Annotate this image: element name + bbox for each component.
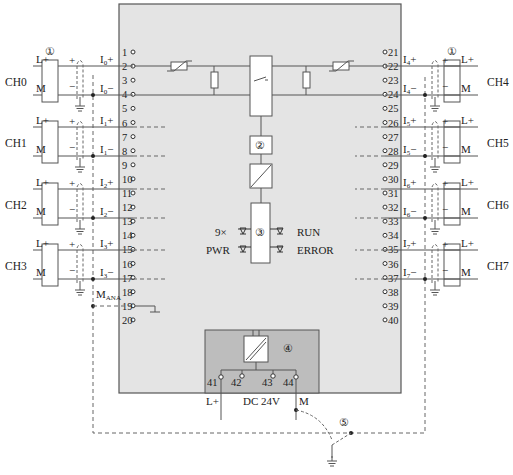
channel-name-ch4: CH4	[487, 76, 509, 88]
svg-text:−: −	[442, 264, 448, 276]
mana-label: MANA	[96, 288, 121, 302]
svg-text:−: −	[442, 141, 448, 153]
svg-text:L+: L+	[36, 176, 49, 188]
terminal-30	[383, 177, 387, 181]
svg-text:+: +	[442, 238, 448, 250]
svg-text:I5+: I5+	[403, 114, 416, 128]
power-supply-block: 41 42 43 44 ④ L+ DC 24V M	[205, 330, 319, 420]
pin-label-32: 32	[388, 202, 399, 213]
pin-label-5: 5	[122, 103, 127, 114]
channel-name-ch1: CH1	[5, 137, 27, 149]
terminal-35	[383, 247, 387, 251]
svg-text:−: −	[442, 203, 448, 215]
pin-label-30: 30	[388, 174, 399, 185]
svg-text:M: M	[36, 266, 46, 278]
svg-text:−: −	[69, 80, 75, 92]
terminal-3	[131, 78, 135, 82]
terminal-38	[383, 290, 387, 294]
led-error-label: ERROR	[297, 244, 334, 256]
terminal-4	[131, 92, 135, 96]
pin-label-39: 39	[388, 301, 399, 312]
pin-41: 41	[207, 377, 218, 388]
svg-text:−: −	[69, 264, 75, 276]
led-run-label: RUN	[297, 226, 320, 238]
callout-5: ⑤	[339, 416, 349, 428]
svg-text:I7+: I7+	[403, 237, 416, 251]
terminal-40	[383, 318, 387, 322]
terminal-21	[383, 50, 387, 54]
svg-text:I3−: I3−	[100, 266, 113, 280]
svg-text:I3+: I3+	[100, 237, 113, 251]
terminal-29	[383, 163, 387, 167]
channel-name-ch0: CH0	[5, 76, 27, 88]
terminal-5	[131, 106, 135, 110]
terminal-34	[383, 233, 387, 237]
channel-name-ch2: CH2	[5, 199, 27, 211]
pin-label-7: 7	[122, 132, 127, 143]
svg-text:M: M	[36, 143, 46, 155]
pin-43: 43	[262, 377, 273, 388]
pin-label-12: 12	[122, 202, 133, 213]
pin-label-36: 36	[388, 259, 399, 270]
terminal-33	[383, 219, 387, 223]
led-pwr-label: PWR	[206, 244, 231, 256]
svg-text:I0+: I0+	[100, 53, 113, 67]
terminal-23	[383, 78, 387, 82]
pin-label-3: 3	[122, 75, 127, 86]
pin-label-9: 9	[122, 160, 127, 171]
terminal-36	[383, 262, 387, 266]
svg-text:I4+: I4+	[403, 53, 416, 67]
svg-text:M: M	[36, 205, 46, 217]
svg-text:M: M	[461, 205, 471, 217]
svg-text:L+: L+	[461, 237, 474, 249]
pin-label-37: 37	[388, 273, 399, 284]
svg-text:I1+: I1+	[100, 114, 113, 128]
terminal-28	[383, 149, 387, 153]
pin-label-18: 18	[122, 287, 133, 298]
pin-label-20: 20	[122, 315, 133, 326]
svg-text:I4−: I4−	[403, 82, 416, 96]
pin-label-31: 31	[388, 188, 399, 199]
supply-lplus-label: L+	[206, 395, 219, 407]
channel-name-ch5: CH5	[487, 137, 509, 149]
pin-label-14: 14	[122, 230, 133, 241]
svg-text:+: +	[69, 54, 75, 66]
terminal-8	[131, 149, 135, 153]
svg-text:+: +	[69, 238, 75, 250]
pin-label-23: 23	[388, 75, 399, 86]
supply-voltage-label: DC 24V	[243, 395, 280, 407]
terminal-24	[383, 92, 387, 96]
channel-ch0: L+M+−CH0I0+I0−①	[5, 45, 133, 111]
pin-42: 42	[231, 377, 242, 388]
channel-ch4: L+M+−CH4I4+I4−①	[385, 45, 509, 111]
pin-44: 44	[283, 377, 294, 388]
terminal-9	[131, 163, 135, 167]
svg-text:L+: L+	[36, 237, 49, 249]
svg-text:I5−: I5−	[403, 143, 416, 157]
svg-text:M: M	[461, 143, 471, 155]
ground-connection-5: ⑤	[294, 408, 353, 466]
pin-label-27: 27	[388, 132, 399, 143]
terminal-31	[383, 191, 387, 195]
svg-text:I6−: I6−	[403, 205, 416, 219]
pin-label-22: 22	[388, 61, 399, 72]
channel-name-ch6: CH6	[487, 199, 509, 211]
led-9x-label: 9×	[215, 226, 227, 238]
svg-text:−: −	[69, 141, 75, 153]
svg-text:L+: L+	[461, 176, 474, 188]
pin-label-8: 8	[122, 146, 127, 157]
callout-2: ②	[255, 139, 265, 151]
svg-text:I7−: I7−	[403, 266, 416, 280]
terminal-7	[131, 135, 135, 139]
svg-text:M: M	[461, 82, 471, 94]
svg-text:I2−: I2−	[100, 205, 113, 219]
svg-text:+: +	[69, 115, 75, 127]
callout-4: ④	[283, 342, 293, 354]
supply-m-label: M	[299, 395, 309, 407]
terminal-26	[383, 121, 387, 125]
pin-label-40: 40	[388, 315, 399, 326]
svg-text:L+: L+	[461, 114, 474, 126]
terminal-1	[131, 50, 135, 54]
svg-text:+: +	[442, 177, 448, 189]
terminal-32	[383, 205, 387, 209]
